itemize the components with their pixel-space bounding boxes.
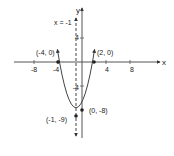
point-vertex	[74, 114, 78, 118]
point-label: (2, 0)	[97, 49, 113, 57]
y-axis-label: y	[76, 6, 80, 15]
point-x-intercept-right	[92, 60, 96, 64]
point-x-intercept-left	[56, 60, 60, 64]
point-label: (-1, -9)	[46, 116, 67, 124]
point-label: (0, -8)	[89, 107, 108, 115]
x-axis-label: x	[162, 58, 166, 67]
point-label: (-4, 0)	[36, 49, 55, 57]
x-tick-label: 8	[130, 66, 134, 73]
x-tick-label: -8	[31, 66, 37, 73]
x-tick-label: -4	[53, 66, 59, 73]
point-y-intercept	[80, 108, 84, 112]
x-tick-label: 4	[105, 66, 109, 73]
parabola-graph: x y -8 -4 4 8 4 -4 x = -1 (-4, 0) (2, 0)…	[0, 0, 174, 156]
axis-of-symmetry-label: x = -1	[54, 19, 72, 26]
